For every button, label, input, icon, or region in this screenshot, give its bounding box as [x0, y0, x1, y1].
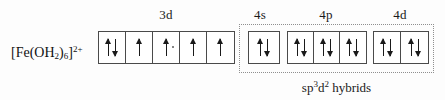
- electron-pair: [294, 38, 308, 57]
- spin-down-arrow-icon: [387, 38, 394, 57]
- orbital-group-4s: [248, 31, 280, 64]
- 4p-box-3: [340, 32, 366, 63]
- spin-down-arrow-icon: [264, 38, 271, 57]
- electron-pair: [408, 38, 422, 57]
- scan-speck: [172, 46, 174, 48]
- orbital-group-4d: [373, 31, 429, 64]
- 4p-box-2: [314, 32, 340, 63]
- 4d-box-1: [374, 32, 401, 63]
- hybrid-caption-base: sp: [302, 80, 314, 95]
- spin-up-arrow-icon: [320, 38, 327, 57]
- hybrid-caption-tail: hybrids: [329, 80, 371, 95]
- 3d-box-2: [126, 32, 153, 63]
- single-electron: [136, 38, 143, 57]
- spin-up-arrow-icon: [346, 38, 353, 57]
- shell-label-3d: 3d: [98, 8, 234, 22]
- 4d-box-2: [401, 32, 428, 63]
- spin-up-arrow-icon: [257, 38, 264, 57]
- spin-up-arrow-icon: [190, 38, 197, 57]
- single-electron: [217, 38, 224, 57]
- orbital-box-diagram: 3d 4s 4p 4d [Fe(OH2)6]2+: [0, 0, 445, 100]
- single-electron: [163, 38, 170, 57]
- spin-down-arrow-icon: [112, 38, 119, 57]
- orbital-group-3d: [98, 31, 235, 64]
- spin-down-arrow-icon: [301, 38, 308, 57]
- spin-down-arrow-icon: [353, 38, 360, 57]
- shell-label-4s: 4s: [241, 8, 279, 22]
- 4p-box-1: [288, 32, 314, 63]
- spin-up-arrow-icon: [294, 38, 301, 57]
- electron-pair: [257, 38, 271, 57]
- formula-charge: 2+: [73, 44, 83, 54]
- species-formula: [Fe(OH2)6]2+: [11, 40, 82, 65]
- single-electron: [190, 38, 197, 57]
- 3d-box-4: [180, 32, 207, 63]
- electron-pair: [380, 38, 394, 57]
- shell-label-4d: 4d: [372, 8, 428, 22]
- formula-prefix: [Fe(OH: [11, 45, 55, 60]
- electron-pair: [105, 38, 119, 57]
- 4s-box-1: [249, 32, 279, 63]
- shell-label-4p: 4p: [286, 8, 366, 22]
- 3d-box-3: [153, 32, 180, 63]
- spin-up-arrow-icon: [408, 38, 415, 57]
- spin-up-arrow-icon: [380, 38, 387, 57]
- spin-up-arrow-icon: [217, 38, 224, 57]
- 3d-box-1: [99, 32, 126, 63]
- hybrid-caption: sp3d2 hybrids: [239, 77, 434, 95]
- spin-down-arrow-icon: [415, 38, 422, 57]
- spin-up-arrow-icon: [105, 38, 112, 57]
- spin-down-arrow-icon: [327, 38, 334, 57]
- spin-up-arrow-icon: [163, 38, 170, 57]
- orbital-group-4p: [287, 31, 367, 64]
- electron-pair: [346, 38, 360, 57]
- spin-up-arrow-icon: [136, 38, 143, 57]
- 3d-box-5: [207, 32, 234, 63]
- electron-pair: [320, 38, 334, 57]
